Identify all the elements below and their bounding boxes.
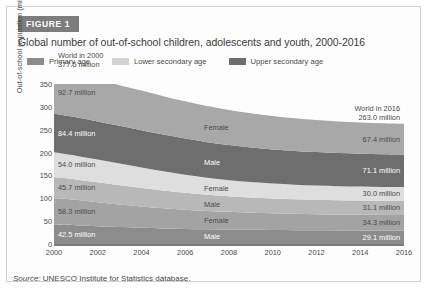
y-axis-tick: 300	[40, 102, 52, 111]
x-axis-tick-labels: 200020022004200620082010201220142016	[54, 248, 404, 260]
legend-swatch-icon	[112, 58, 129, 65]
source-text: UNESCO Institute for Statistics database…	[43, 274, 191, 283]
x-axis-tick: 2010	[265, 248, 281, 257]
x-axis-tick: 2004	[133, 248, 149, 257]
figure-number-badge: FIGURE 1	[18, 16, 79, 32]
y-axis-tick: 200	[40, 148, 52, 157]
world-2016-line2: 263.0 million	[359, 113, 401, 122]
x-axis-tick: 2016	[396, 248, 412, 257]
figure-title: Global number of out-of-school children,…	[18, 36, 418, 48]
source-prefix: Source:	[13, 274, 41, 283]
world-2016-annotation: World in 2016263.0 million	[355, 104, 400, 122]
y-axis-tick: 250	[40, 125, 52, 134]
source-note: Source: UNESCO Institute for Statistics …	[13, 274, 190, 283]
chart-plot-wrapper: Out-of-school population (million) 05010…	[18, 70, 411, 266]
y-axis-tick-labels: 050100150200250300350	[26, 84, 52, 244]
figure-container: FIGURE 1 Global number of out-of-school …	[6, 6, 421, 282]
x-axis-line	[54, 244, 404, 246]
stacked-area-plot: 42.5 millionMale29.1 million58.3 million…	[54, 84, 404, 244]
world-2016-line1: World in 2016	[355, 104, 400, 113]
y-axis-tick: 100	[40, 194, 52, 203]
x-axis-tick: 2014	[352, 248, 368, 257]
legend-swatch-icon	[229, 58, 246, 65]
world-2000-line1: World in 2000	[58, 51, 103, 60]
legend-label: Upper secondary age	[251, 57, 324, 66]
x-axis-tick: 2012	[308, 248, 324, 257]
x-axis-tick: 2008	[221, 248, 237, 257]
world-2000-annotation: World in 2000377.5 million	[58, 51, 103, 69]
x-axis-tick: 2006	[177, 248, 193, 257]
y-axis-title: Out-of-school population (million)	[15, 0, 24, 98]
y-axis-tick: 50	[44, 217, 52, 226]
y-axis-tick: 150	[40, 171, 52, 180]
chart-axes: 42.5 millionMale29.1 million58.3 million…	[54, 70, 404, 258]
area-series-svg	[54, 84, 404, 244]
x-axis-tick: 2002	[90, 248, 106, 257]
legend-item-lower-secondary-age: Lower secondary age	[112, 57, 207, 66]
y-axis-tick: 350	[40, 80, 52, 89]
legend-item-upper-secondary-age: Upper secondary age	[229, 57, 324, 66]
world-2000-line2: 377.5 million	[58, 60, 100, 69]
x-axis-tick: 2000	[46, 248, 62, 257]
legend-swatch-icon	[27, 58, 44, 65]
legend-label: Lower secondary age	[134, 57, 207, 66]
